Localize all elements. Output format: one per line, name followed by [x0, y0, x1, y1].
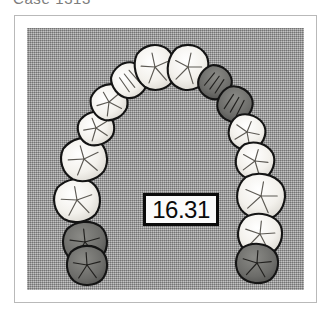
- figure-caption: Case 1313: [0, 0, 331, 15]
- dental-photo-plate: 16.31: [27, 28, 304, 290]
- teeth-group: [51, 41, 289, 286]
- tooth-right-first-molar: [51, 175, 104, 225]
- caption-label: Case 1313: [13, 0, 91, 7]
- tooth-right-third-molar: [66, 244, 109, 286]
- measurement-callout-box: 16.31: [143, 193, 219, 226]
- figure-frame: 16.31: [14, 15, 317, 303]
- tooth-left-third-molar: [235, 242, 280, 284]
- dental-arch-diagram: [27, 28, 304, 290]
- measurement-value: 16.31: [152, 198, 210, 222]
